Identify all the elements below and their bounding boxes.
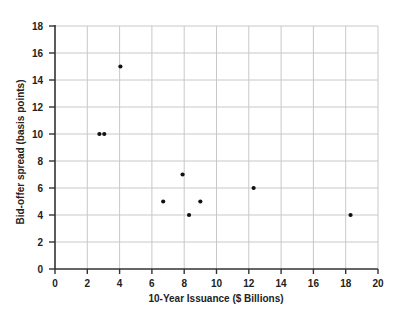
y-tick-label: 6 [37,183,43,194]
y-tick-label: 10 [32,129,44,140]
x-tick-label: 18 [340,278,352,289]
data-point [187,213,191,217]
y-tick-label: 4 [37,210,43,221]
scatter-chart: 02468101214161820 024681012141618 10-Yea… [0,0,398,321]
y-tick-label: 14 [32,75,44,86]
grid-lines [55,26,378,269]
x-tick-label: 12 [243,278,255,289]
x-axis-ticks: 02468101214161820 [52,269,384,289]
y-tick-label: 18 [32,21,44,32]
y-tick-label: 2 [37,237,43,248]
data-point [348,213,352,217]
data-point [118,64,122,68]
data-point [97,132,101,136]
data-points [97,64,352,217]
x-tick-label: 8 [181,278,187,289]
data-point [252,186,256,190]
data-point [102,132,106,136]
y-tick-label: 8 [37,156,43,167]
x-tick-label: 10 [211,278,223,289]
x-tick-label: 4 [117,278,123,289]
y-tick-label: 16 [32,48,44,59]
x-tick-label: 6 [149,278,155,289]
data-point [161,199,165,203]
y-axis-title: Bid-offer spread (basis points) [15,79,26,224]
y-tick-label: 12 [32,102,44,113]
x-tick-label: 2 [85,278,91,289]
y-axis-ticks: 024681012141618 [32,21,55,275]
x-axis-title: 10-Year Issuance ($ Billions) [148,293,283,304]
x-tick-label: 0 [52,278,58,289]
x-tick-label: 16 [308,278,320,289]
x-tick-label: 14 [276,278,288,289]
data-point [180,172,184,176]
x-tick-label: 20 [372,278,384,289]
data-point [198,199,202,203]
y-tick-label: 0 [37,264,43,275]
